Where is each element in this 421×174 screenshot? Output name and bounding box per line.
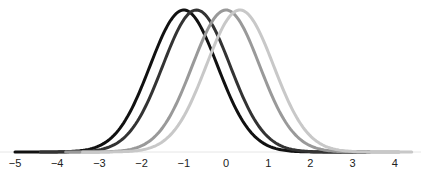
x-tick-label: 0 — [223, 157, 229, 169]
series-curve-3 — [66, 10, 399, 152]
x-tick-label: 4 — [392, 157, 398, 169]
x-tick-label: −5 — [9, 157, 22, 169]
curves — [15, 10, 412, 152]
plot-area: −5−4−3−2−101234 — [0, 0, 421, 174]
x-tick-label: 1 — [265, 157, 271, 169]
x-tick-label: 3 — [350, 157, 356, 169]
series-curve-2 — [40, 10, 369, 152]
x-tick-label: −3 — [93, 157, 106, 169]
series-curve-1 — [15, 10, 365, 152]
x-tick-label: −2 — [135, 157, 148, 169]
x-axis-ticks: −5−4−3−2−101234 — [9, 157, 398, 169]
x-tick-label: −4 — [51, 157, 64, 169]
chart: −5−4−3−2−101234 — [0, 0, 421, 174]
x-tick-label: −1 — [178, 157, 191, 169]
x-tick-label: 2 — [307, 157, 313, 169]
